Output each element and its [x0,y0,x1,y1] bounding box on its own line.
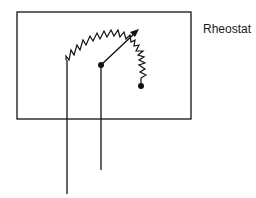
wiper-line [101,33,135,65]
enclosure-box [17,12,191,119]
diagram-title: Rheostat [203,22,251,36]
end-terminal-dot [138,83,144,89]
resistor-zigzag-icon [66,30,146,84]
